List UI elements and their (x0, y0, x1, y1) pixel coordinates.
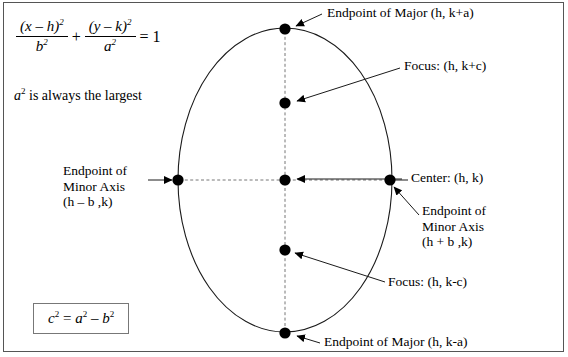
label-center: Center: (h, k) (411, 170, 483, 186)
boxed-minus: – (91, 310, 99, 326)
ellipse-equation: (x – h)2 b2 + (y – k)2 a2 = 1 (14, 18, 163, 55)
boxed-c-exponent: 2 (55, 309, 60, 319)
fraction-y-term: (y – k)2 a2 (85, 18, 136, 55)
label-endpoint-minor-right-line1: Endpoint of (422, 203, 486, 219)
boxed-formula: c2 = a2 – b2 (33, 303, 129, 334)
equation-denominator-right-exponent: 2 (112, 37, 117, 47)
label-focus-top: Focus: (h, k+c) (404, 58, 486, 74)
equation-denominator-right: a (104, 38, 112, 54)
note-symbol: a (14, 88, 21, 103)
label-endpoint-minor-left-line3: (h – b ,k) (63, 194, 127, 210)
equation-plus-sign: + (70, 28, 83, 46)
label-endpoint-minor-left: Endpoint of Minor Axis (h – b ,k) (63, 163, 127, 210)
equation-denominator-left-exponent: 2 (43, 37, 48, 47)
equation-numerator-left: (x – h) (20, 18, 59, 34)
boxed-b-exponent: 2 (110, 309, 115, 319)
equation-numerator-right: (y – k) (89, 18, 127, 34)
label-endpoint-minor-left-line2: Minor Axis (63, 179, 127, 195)
largest-note: a2 is always the largest (14, 88, 142, 104)
equation-numerator-right-exponent: 2 (127, 17, 132, 27)
label-endpoint-major-top: Endpoint of Major (h, k+a) (327, 5, 474, 21)
note-symbol-exponent: 2 (21, 86, 26, 96)
label-endpoint-major-bottom: Endpoint of Major (h, k-a) (324, 334, 468, 350)
equation-numerator-left-exponent: 2 (59, 17, 64, 27)
label-endpoint-minor-left-line1: Endpoint of (63, 163, 127, 179)
boxed-c: c (48, 310, 55, 326)
equation-equals-one: = 1 (138, 28, 163, 46)
boxed-a-exponent: 2 (83, 309, 88, 319)
note-text: is always the largest (29, 88, 142, 103)
boxed-b: b (102, 310, 110, 326)
label-endpoint-minor-right-line3: (h + b ,k) (422, 234, 486, 250)
ellipse-figure: (x – h)2 b2 + (y – k)2 a2 = 1 a2 is alwa… (0, 0, 568, 357)
label-endpoint-minor-right-line2: Minor Axis (422, 219, 486, 235)
label-focus-bottom: Focus: (h, k-c) (388, 274, 467, 290)
boxed-equals: = (63, 310, 71, 326)
fraction-x-term: (x – h)2 b2 (16, 18, 68, 55)
label-endpoint-minor-right: Endpoint of Minor Axis (h + b ,k) (422, 203, 486, 250)
boxed-a: a (75, 310, 83, 326)
